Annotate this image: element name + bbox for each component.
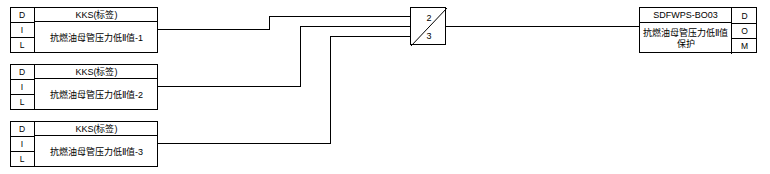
output-io-m: M [732, 38, 757, 54]
input-block-1-kks: KKS(标签) [35, 7, 158, 22]
wire-input1-h2 [269, 16, 410, 17]
wire-input3-v1 [330, 36, 331, 144]
output-block-tag: SDFWPS-BO03 [640, 8, 732, 23]
voting-gate-2oo3[interactable]: 2 3 [410, 7, 446, 45]
input-block-3-io-l: L [10, 151, 34, 167]
wire-input1-h1 [158, 29, 269, 30]
wire-input1-v1 [269, 16, 270, 30]
input-block-3-io-d: D [10, 121, 34, 136]
logic-diagram-canvas: D I L KKS(标签) 抗燃油母管压力低Ⅱ值-1 D I L KKS(标签)… [0, 0, 770, 174]
input-block-2-io-d: D [10, 64, 34, 79]
wire-input3-h1 [158, 143, 330, 144]
input-block-3-kks: KKS(标签) [35, 121, 158, 136]
wire-input2-h1 [158, 86, 300, 87]
input-block-1-description: 抗燃油母管压力低Ⅱ值-1 [35, 22, 158, 53]
output-block[interactable]: SDFWPS-BO03 抗燃油母管压力低Ⅱ值保护 D O M [639, 7, 757, 53]
input-block-2-description: 抗燃油母管压力低Ⅱ值-2 [35, 79, 158, 110]
wire-input2-h2 [300, 26, 410, 27]
output-block-description: 抗燃油母管压力低Ⅱ值保护 [640, 23, 732, 54]
output-io-o: O [732, 23, 757, 38]
input-block-3-description: 抗燃油母管压力低Ⅱ值-3 [35, 136, 158, 167]
input-block-2-io-l: L [10, 94, 34, 110]
output-io-d: D [732, 8, 757, 23]
input-block-1-io-d: D [10, 7, 34, 22]
wire-input3-h2 [330, 36, 410, 37]
input-block-3-io-i: I [10, 136, 34, 151]
input-block-1-io-l: L [10, 37, 34, 53]
input-block-1-io-i: I [10, 22, 34, 37]
input-block-2-kks: KKS(标签) [35, 64, 158, 79]
gate-numerator: 2 [411, 9, 447, 26]
input-block-2-io-i: I [10, 79, 34, 94]
wire-input2-v1 [300, 26, 301, 87]
gate-denominator: 3 [411, 27, 447, 44]
wire-gate-output [446, 26, 639, 27]
